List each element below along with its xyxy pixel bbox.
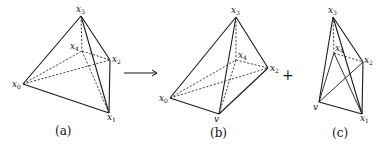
vertex-label-x3: x3 [231, 5, 240, 16]
vertex-label-x3: x3 [76, 4, 85, 15]
caption-a: (a) [55, 124, 72, 138]
figure-b-solid-edges [170, 17, 268, 114]
vertex-label-x1: x1 [107, 112, 116, 123]
vertex-label-x1: x1 [360, 113, 369, 124]
figure-a: x3 x4 x2 x0 x1 (a) [12, 4, 121, 138]
vertex-label-x3: x3 [328, 5, 337, 16]
caption-c: (c) [332, 126, 348, 140]
figure-c-solid-edges [319, 17, 363, 114]
vertex-label-x0: x0 [159, 93, 168, 104]
figure-b-dashed-edges [170, 17, 268, 114]
arrow-icon [124, 70, 157, 76]
tetrahedron-decomposition-diagram: x3 x4 x2 x0 x1 (a) x3 x4 x2 x0 v (b) [0, 0, 385, 151]
vertex-label-v: v [313, 102, 318, 112]
vertex-label-x2: x2 [112, 54, 121, 65]
vertex-label-x4: x4 [70, 41, 79, 52]
vertex-label-x2: x2 [270, 63, 279, 74]
figure-b: x3 x4 x2 x0 v (b) [159, 5, 279, 140]
vertex-label-v: v [214, 114, 219, 124]
figure-c: x3 x4 x2 v x1 (c) [313, 5, 373, 140]
plus-sign: + [282, 67, 294, 83]
figure-a-solid-edges [23, 16, 110, 113]
vertex-label-x4: x4 [238, 50, 247, 61]
caption-b: (b) [210, 126, 227, 140]
vertex-label-x4: x4 [335, 43, 344, 54]
vertex-label-x2: x2 [364, 55, 373, 66]
vertex-label-x0: x0 [12, 79, 21, 90]
